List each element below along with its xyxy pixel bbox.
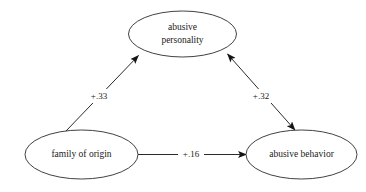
node-label-abusive-personality-line2: personality xyxy=(161,35,203,45)
edge-label-family-to-personality: +.33 xyxy=(86,89,112,103)
node-family-of-origin[interactable]: family of origin xyxy=(25,130,138,179)
edge-label-family-to-behavior: +.16 xyxy=(178,148,204,162)
node-ellipse-abusive-personality xyxy=(129,11,237,57)
node-label-family-of-origin: family of origin xyxy=(51,149,111,159)
node-label-abusive-personality-line1: abusive xyxy=(168,22,197,32)
path-model-diagram: abusive personality family of origin abu… xyxy=(0,0,366,192)
node-abusive-personality[interactable]: abusive personality xyxy=(129,11,237,57)
edge-label-text-32: +.32 xyxy=(253,91,269,101)
edge-label-text-33: +.33 xyxy=(91,91,108,101)
edge-label-text-16: +.16 xyxy=(183,149,200,159)
path-diagram-container: abusive personality family of origin abu… xyxy=(0,0,366,192)
node-abusive-behavior[interactable]: abusive behavior xyxy=(246,130,357,179)
edge-label-behavior-personality: +.32 xyxy=(248,89,274,103)
node-label-abusive-behavior: abusive behavior xyxy=(269,149,334,159)
